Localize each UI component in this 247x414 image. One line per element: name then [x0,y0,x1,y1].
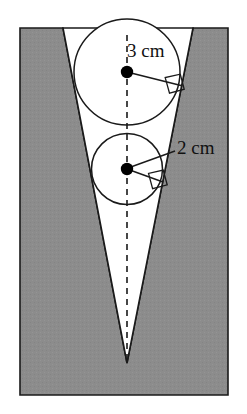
large-circle-center-dot [121,66,133,78]
label-radius-large: 3 cm [127,40,165,61]
small-circle-center-dot [121,163,133,175]
label-radius-small: 2 cm [177,137,215,158]
figure-container: 3 cm 2 cm [0,0,247,414]
v-groove-diagram: 3 cm 2 cm [0,0,247,414]
